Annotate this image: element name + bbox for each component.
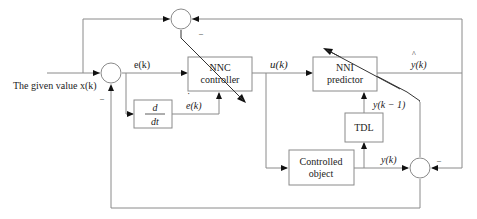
output-label: y(k) (380, 154, 397, 166)
arrowhead-tdl-input (361, 142, 367, 149)
error-dot-accent: ˙ (187, 91, 190, 102)
right-sum-minus-sign: – (436, 156, 442, 165)
prediction-error-line (419, 101, 420, 157)
nni-label-line1: NNI (336, 62, 354, 73)
prediction-hat: ^ (412, 50, 416, 59)
arrowhead-nni-input (306, 70, 313, 76)
arrowhead-plant-input (281, 165, 288, 171)
arrowhead-nnc-input (181, 70, 188, 76)
arrowhead-nnc-error-dot (216, 92, 222, 99)
derivative-denominator: dt (151, 116, 159, 127)
tdl-block: TDL (345, 113, 383, 142)
derivative-block: d dt (134, 100, 172, 128)
arrowhead-right-sum-output (402, 165, 409, 171)
diagram-canvas: NNC controller NNI predictor d dt TDL Co… (0, 0, 477, 219)
control-label: u(k) (270, 58, 288, 71)
nnc-label-line1: NNC (209, 62, 230, 73)
prediction-label: y(k) (410, 59, 427, 71)
input-label: The given value x(k) (13, 80, 97, 92)
left-sum-minus-sign: – (99, 94, 105, 103)
error-to-derivative-line (126, 73, 133, 114)
nni-predictor-block: NNI predictor (313, 57, 377, 91)
arrowhead-top-sum-right (192, 16, 199, 22)
arrowhead-derivative-input (127, 111, 134, 117)
nni-adaptation-arrowhead (323, 48, 333, 55)
right-feedback-rail (192, 19, 462, 168)
arrowhead-right-sum-prediction (431, 165, 438, 171)
delayed-output-label: y(k − 1) (372, 99, 406, 111)
top-sum-minus-sign: – (198, 29, 204, 38)
left-summing-junction (101, 63, 121, 83)
plant-label-line2: object (309, 168, 334, 179)
tdl-label: TDL (354, 122, 373, 133)
plant-label-line1: Controlled (300, 156, 343, 167)
arrowhead-left-sum-feedback (108, 84, 114, 91)
nnc-label-line2: controller (201, 74, 241, 85)
arrowhead-top-sum-left (163, 16, 170, 22)
control-to-plant-line (266, 73, 287, 168)
input-to-top-sum-line (83, 19, 170, 73)
top-summing-junction (171, 9, 191, 29)
arrowhead-nni-delayed-input (361, 92, 367, 99)
nni-label-line2: predictor (327, 74, 364, 85)
right-summing-junction (410, 158, 430, 178)
nn-control-block-diagram: NNC controller NNI predictor d dt TDL Co… (0, 0, 477, 219)
controlled-object-block: Controlled object (289, 150, 354, 185)
error-label: e(k) (134, 59, 150, 71)
nnc-controller-block: NNC controller (188, 57, 252, 91)
arrowhead-left-sum-input (93, 70, 100, 76)
